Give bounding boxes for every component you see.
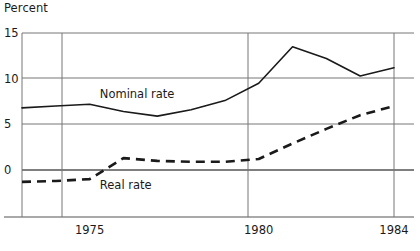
y-axis-tick-10: 10 (4, 73, 19, 85)
x-axis-tick-1975: 1975 (65, 224, 115, 236)
series-label-real-rate: Real rate (100, 179, 152, 191)
horizontal-gridlines (4, 33, 414, 217)
series-line-nominal-rate (22, 47, 394, 116)
vertical-gridlines (22, 33, 394, 217)
y-axis-tick-15: 15 (4, 27, 19, 39)
x-axis-tick-1984: 1984 (369, 224, 419, 236)
x-axis-tick-1980: 1980 (234, 224, 284, 236)
y-axis-tick-5: 5 (4, 118, 11, 130)
y-axis-tick-0: 0 (4, 164, 11, 176)
chart-plot-area (0, 0, 420, 251)
series-label-nominal-rate: Nominal rate (100, 88, 175, 100)
chart-container: Percent 15 10 5 0 1975 1980 1984 Nominal… (0, 0, 420, 251)
